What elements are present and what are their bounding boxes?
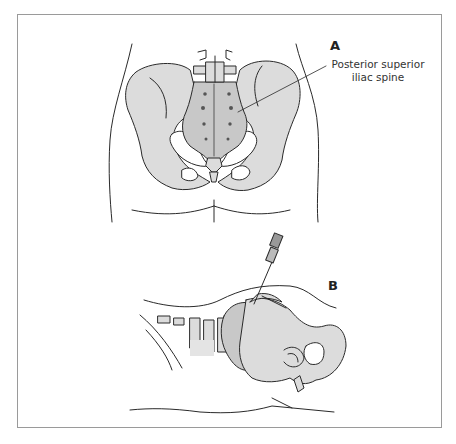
- panel-a-label: A: [330, 38, 340, 53]
- callout-line-2: iliac spine: [326, 71, 430, 84]
- needle: [254, 233, 283, 304]
- panel-b-illustration: [130, 233, 346, 413]
- panel-b-label: B: [328, 278, 338, 293]
- psis-callout: Posterior superior iliac spine: [326, 58, 430, 84]
- panel-a-illustration: [109, 44, 326, 222]
- hip-bone: [240, 298, 347, 383]
- callout-line-1: Posterior superior: [326, 58, 430, 71]
